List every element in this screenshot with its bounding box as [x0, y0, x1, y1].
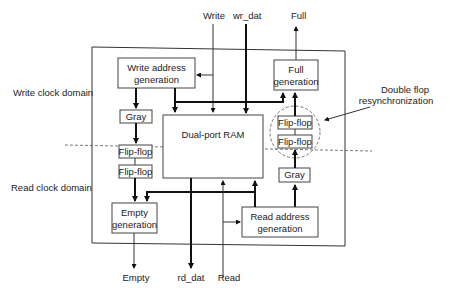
svg-text:Flip-flop: Flip-flop — [119, 166, 153, 177]
annotation-double-flop: Double flop — [381, 84, 429, 95]
flip-flop-left-top: Flip-flop — [119, 145, 153, 158]
empty-generation-block: Empty generation — [112, 203, 157, 233]
svg-text:Flip-flop: Flip-flop — [119, 146, 153, 157]
svg-text:Full: Full — [288, 64, 303, 75]
fifo-diagram: Write clock domain Read clock domain Wri… — [0, 0, 449, 295]
svg-text:Gray: Gray — [284, 169, 305, 180]
svg-text:Read address: Read address — [250, 211, 309, 222]
svg-text:generation: generation — [134, 74, 179, 85]
write-address-generation-block: Write address generation — [118, 58, 195, 88]
write-clock-domain-label: Write clock domain — [13, 87, 93, 98]
annotation-resynchronization: resynchronization — [359, 95, 433, 106]
read-clock-domain-label: Read clock domain — [11, 182, 92, 193]
read-input-label: Read — [218, 272, 241, 283]
flip-flop-right-top: Flip-flop — [278, 116, 312, 129]
rd-dat-output-label: rd_dat — [178, 272, 205, 283]
svg-text:generation: generation — [112, 219, 157, 230]
wr-dat-input-label: wr_dat — [232, 10, 262, 21]
flip-flop-left-bottom: Flip-flop — [119, 165, 153, 178]
gray-write-block: Gray — [120, 110, 152, 123]
full-output-label: Full — [291, 10, 306, 21]
full-generation-block: Full generation — [274, 60, 319, 90]
write-input-label: Write — [203, 10, 225, 21]
empty-output-label: Empty — [123, 272, 150, 283]
flip-flop-right-bottom: Flip-flop — [278, 135, 312, 148]
svg-text:Dual-port RAM: Dual-port RAM — [182, 129, 245, 140]
gray-read-block: Gray — [279, 168, 310, 182]
svg-text:generation: generation — [274, 76, 319, 87]
svg-text:Gray: Gray — [126, 111, 147, 122]
svg-text:Flip-flop: Flip-flop — [278, 136, 312, 147]
svg-text:Write address: Write address — [127, 62, 186, 73]
read-address-generation-block: Read address generation — [242, 207, 318, 237]
svg-text:generation: generation — [258, 223, 303, 234]
svg-text:Flip-flop: Flip-flop — [278, 117, 312, 128]
svg-text:Empty: Empty — [121, 207, 148, 218]
dual-port-ram-block: Dual-port RAM — [163, 115, 263, 178]
